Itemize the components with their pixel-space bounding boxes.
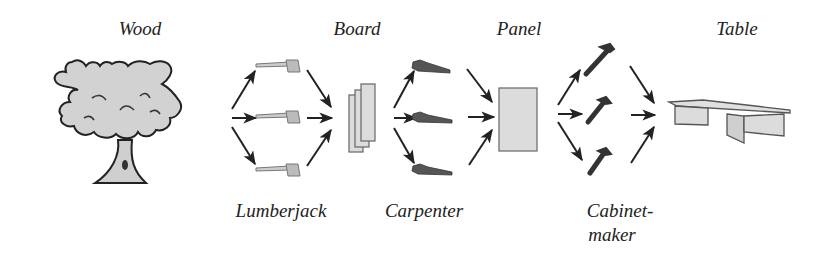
arrows-cabinetmaker-to-table bbox=[630, 66, 655, 163]
tree-icon bbox=[55, 60, 181, 183]
hammer-icon bbox=[586, 44, 614, 173]
boards-icon bbox=[349, 84, 375, 152]
arrows-wood-to-lumberjack bbox=[232, 71, 256, 164]
axe-icon bbox=[256, 60, 300, 176]
arrows-panel-to-cabinetmaker bbox=[558, 70, 582, 160]
saw-icon bbox=[412, 60, 452, 175]
panel-icon bbox=[499, 88, 537, 151]
diagram-canvas bbox=[0, 0, 826, 259]
table-icon bbox=[669, 100, 790, 143]
arrows-carpenter-to-panel bbox=[467, 69, 494, 165]
arrows-lumberjack-to-board bbox=[307, 70, 332, 166]
